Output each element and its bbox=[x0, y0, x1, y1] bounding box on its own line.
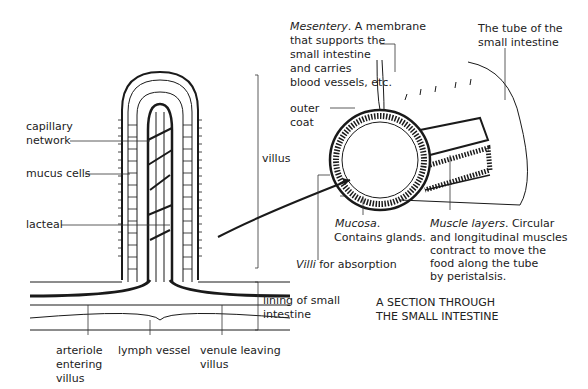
label-mesentery-2: that supports the bbox=[290, 34, 385, 47]
mucosa-text-1: . bbox=[377, 217, 381, 230]
diagram-title-2: THE SMALL INTESTINE bbox=[376, 310, 498, 323]
label-tube-1: The tube of the bbox=[478, 22, 563, 35]
muscle-text-1: . Circular bbox=[505, 217, 554, 230]
villi-title: Villi bbox=[296, 258, 316, 271]
mesentery-title: Mesentery bbox=[290, 20, 348, 33]
label-muscle-1: Muscle layers. Circular bbox=[430, 217, 554, 230]
label-capillary-network-1: capillary bbox=[26, 120, 73, 133]
label-muscle-4: food along the tube bbox=[430, 257, 538, 270]
label-mesentery-1: Mesentery. A membrane bbox=[290, 20, 426, 33]
label-capillary-network-2: network bbox=[26, 134, 71, 147]
label-mucosa-2: Contains glands. bbox=[334, 231, 426, 244]
label-mesentery-4: and carries bbox=[290, 62, 351, 75]
label-villus: villus bbox=[262, 152, 290, 165]
diagram-title-1: A SECTION THROUGH bbox=[376, 296, 495, 309]
label-lining-2: intestine bbox=[263, 308, 311, 321]
label-mucosa-1: Mucosa. bbox=[335, 217, 380, 230]
label-villi: Villi for absorption bbox=[296, 258, 397, 271]
label-muscle-5: by peristalsis. bbox=[430, 270, 506, 283]
label-lymph-vessel: lymph vessel bbox=[118, 344, 190, 357]
label-outer-coat-1: outer bbox=[290, 102, 319, 115]
label-tube-2: small intestine bbox=[478, 36, 559, 49]
label-arteriole-1: arteriole bbox=[56, 344, 102, 357]
label-mesentery-3: small intestine bbox=[290, 48, 371, 61]
label-outer-coat-2: coat bbox=[290, 116, 314, 129]
villus-drawing bbox=[30, 72, 290, 330]
label-mesentery-5: blood vessels, etc. bbox=[290, 76, 392, 89]
mucosa-title: Mucosa bbox=[335, 217, 377, 230]
label-arteriole-3: villus bbox=[56, 372, 84, 385]
villi-text: for absorption bbox=[316, 258, 397, 271]
label-muscle-2: and longitudinal muscles bbox=[430, 231, 568, 244]
label-muscle-3: contract to move the bbox=[430, 244, 546, 257]
mesentery-text-1: . A membrane bbox=[348, 20, 426, 33]
label-lacteal: lacteal bbox=[26, 218, 63, 231]
villus-leader-lines bbox=[61, 75, 258, 335]
label-lining-1: lining of small bbox=[263, 294, 340, 307]
label-arteriole-2: entering bbox=[56, 358, 102, 371]
label-mucus-cells: mucus cells bbox=[26, 167, 91, 180]
muscle-title: Muscle layers bbox=[430, 217, 505, 230]
label-venule-2: villus bbox=[200, 358, 228, 371]
label-venule-1: venule leaving bbox=[200, 344, 281, 357]
